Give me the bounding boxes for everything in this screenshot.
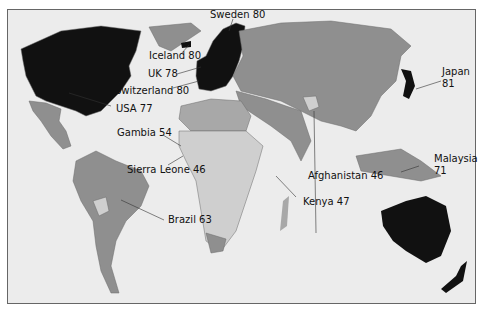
label-switzerland: Switzerland 80 bbox=[115, 85, 189, 96]
map-shapes bbox=[8, 10, 475, 303]
label-afghanistan: Afghanistan 46 bbox=[308, 170, 383, 181]
label-brazil: Brazil 63 bbox=[168, 214, 212, 225]
label-iceland: Iceland 80 bbox=[149, 50, 201, 61]
label-sweden: Sweden 80 bbox=[210, 9, 265, 20]
label-uk: UK 78 bbox=[148, 68, 178, 79]
label-usa: USA 77 bbox=[116, 103, 153, 114]
label-japan-value: 81 bbox=[442, 78, 455, 89]
label-malaysia: Malaysia bbox=[434, 153, 478, 164]
label-gambia: Gambia 54 bbox=[117, 127, 172, 138]
label-malaysia-value: 71 bbox=[434, 165, 447, 176]
label-japan: Japan bbox=[442, 66, 470, 77]
world-map bbox=[7, 9, 476, 304]
label-sierra-leone: Sierra Leone 46 bbox=[127, 164, 206, 175]
label-kenya: Kenya 47 bbox=[303, 196, 350, 207]
